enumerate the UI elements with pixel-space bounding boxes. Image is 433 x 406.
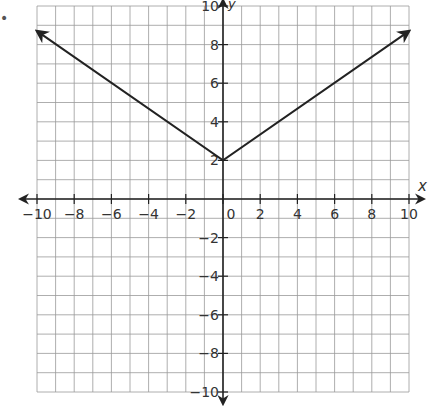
x-tick-label: −2 <box>175 206 196 222</box>
x-tick-label: 10 <box>400 206 418 222</box>
x-axis-label: x <box>417 177 427 195</box>
x-tick-label: 2 <box>256 206 265 222</box>
y-tick-label: 8 <box>210 37 219 53</box>
y-tick-label: −4 <box>198 268 219 284</box>
y-tick-label: 6 <box>210 75 219 91</box>
y-tick-label: −2 <box>198 230 219 246</box>
x-tick-label: 8 <box>367 206 376 222</box>
x-tick-label: 0 <box>227 206 236 222</box>
x-tick-label: −6 <box>101 206 122 222</box>
y-axis-label: y <box>227 0 236 11</box>
y-tick-label: −8 <box>198 345 219 361</box>
y-tick-label: −10 <box>189 384 219 400</box>
y-tick-label: −6 <box>198 307 219 323</box>
x-tick-label: 6 <box>330 206 339 222</box>
y-tick-label: 10 <box>201 0 219 14</box>
x-tick-label: 4 <box>293 206 302 222</box>
x-tick-label: −10 <box>22 206 52 222</box>
coordinate-plane: −10−8−6−4−20246810108642−2−4−6−8−10xy <box>0 0 433 406</box>
y-tick-label: 4 <box>210 114 219 130</box>
x-tick-label: −4 <box>138 206 159 222</box>
x-tick-label: −8 <box>64 206 85 222</box>
